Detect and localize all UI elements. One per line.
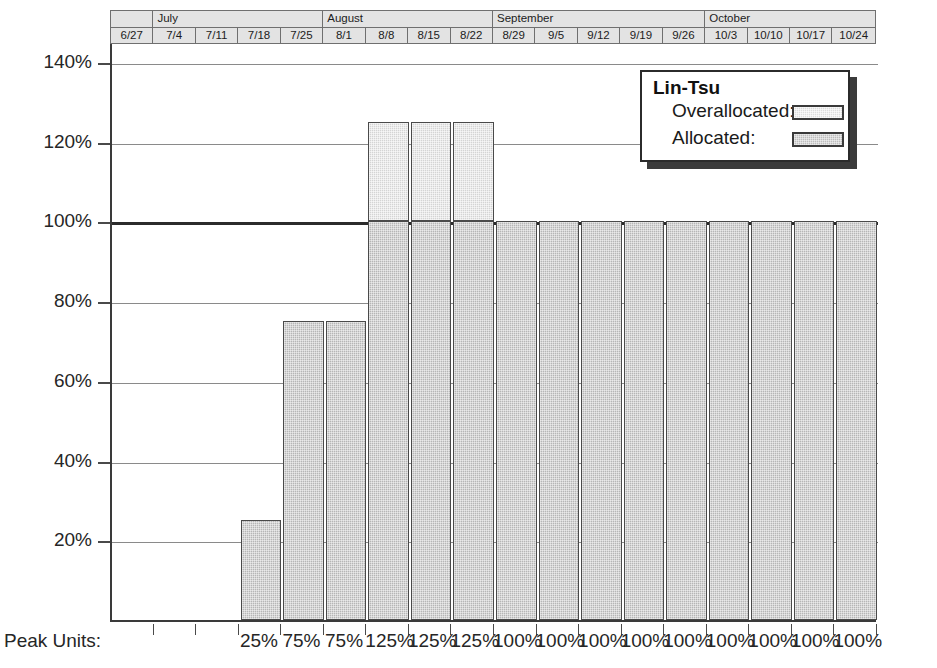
bar-segment-allocated xyxy=(836,221,877,620)
timescale-week-cell: 8/29 xyxy=(493,28,535,43)
bar-segment-allocated xyxy=(283,321,324,620)
timescale-week-cell: 10/24 xyxy=(832,28,874,43)
timescale-week-cell: 8/22 xyxy=(451,28,493,43)
bar-segment-allocated xyxy=(751,221,792,620)
timescale-week-cell: 8/8 xyxy=(366,28,408,43)
peak-units-value: 25% xyxy=(238,630,281,652)
legend-row-overallocated: Overallocated: xyxy=(672,100,844,125)
overallocated-swatch xyxy=(792,105,844,120)
timescale-week-cell: 9/26 xyxy=(663,28,705,43)
peak-units-value: 100% xyxy=(663,630,706,652)
bar-column[interactable] xyxy=(581,221,622,620)
timescale-week-cell: 9/5 xyxy=(535,28,577,43)
bar-column[interactable] xyxy=(666,221,707,620)
bar-segment-allocated xyxy=(581,221,622,620)
bar-segment-overallocated xyxy=(368,122,409,222)
peak-units-value: 75% xyxy=(280,630,323,652)
bar-segment-allocated xyxy=(496,221,537,620)
peak-units-value: 125% xyxy=(365,630,408,652)
bar-column[interactable] xyxy=(624,221,665,620)
timescale-week-cell: 10/10 xyxy=(748,28,790,43)
legend-row-allocated: Allocated: xyxy=(672,127,844,152)
peak-units-value: 100% xyxy=(493,630,536,652)
peak-units-value: 100% xyxy=(791,630,834,652)
bar-segment-allocated xyxy=(709,221,750,620)
bar-column[interactable] xyxy=(836,221,877,620)
y-axis-tick xyxy=(98,222,110,224)
bar-segment-overallocated xyxy=(411,122,452,222)
peak-units-value: 100% xyxy=(536,630,579,652)
timescale-week-cell: 8/15 xyxy=(408,28,450,43)
timescale-month-row: JulyAugustSeptemberOctober xyxy=(110,10,876,27)
bar-column[interactable] xyxy=(751,221,792,620)
timescale-week-cell: 9/12 xyxy=(578,28,620,43)
peak-units-value: 100% xyxy=(706,630,749,652)
bar-segment-allocated xyxy=(411,221,452,620)
legend-box[interactable]: Lin-Tsu Overallocated: Allocated: xyxy=(640,70,850,162)
bar-segment-allocated xyxy=(453,221,494,620)
timescale-week-cell: 6/27 xyxy=(111,28,153,43)
bar-column[interactable] xyxy=(794,221,835,620)
y-axis-label: 60% xyxy=(54,370,92,392)
legend-label-overallocated: Overallocated: xyxy=(672,100,795,122)
legend-title: Lin-Tsu xyxy=(653,77,720,99)
y-axis-label: 120% xyxy=(43,131,92,153)
peak-units-value: 75% xyxy=(323,630,366,652)
bar-segment-allocated xyxy=(539,221,580,620)
timescale-month-september: September xyxy=(493,11,705,27)
x-axis-tick xyxy=(153,624,154,635)
bar-column[interactable] xyxy=(453,122,494,620)
timescale-month-blank xyxy=(111,11,153,27)
timescale-header: JulyAugustSeptemberOctober 6/277/47/117/… xyxy=(110,10,876,44)
y-axis-tick xyxy=(98,63,110,65)
y-axis-label: 20% xyxy=(54,529,92,551)
y-axis-label: 80% xyxy=(54,290,92,312)
bar-column[interactable] xyxy=(241,520,282,620)
bar-segment-overallocated xyxy=(453,122,494,222)
peak-units-label: Peak Units: xyxy=(4,630,101,652)
gridline-140 xyxy=(112,64,878,65)
bar-segment-allocated xyxy=(368,221,409,620)
x-axis-tick xyxy=(195,624,196,635)
timescale-week-cell: 7/25 xyxy=(281,28,323,43)
bar-segment-allocated xyxy=(666,221,707,620)
y-axis-tick xyxy=(98,382,110,384)
bar-column[interactable] xyxy=(496,221,537,620)
bar-column[interactable] xyxy=(411,122,452,620)
y-axis-tick xyxy=(98,462,110,464)
timescale-month-august: August xyxy=(323,11,493,27)
peak-units-value: 100% xyxy=(621,630,664,652)
legend-label-allocated: Allocated: xyxy=(672,127,755,149)
bar-column[interactable] xyxy=(368,122,409,620)
timescale-week-row: 6/277/47/117/187/258/18/88/158/228/299/5… xyxy=(110,27,876,44)
timescale-week-cell: 9/19 xyxy=(620,28,662,43)
y-axis-label: 140% xyxy=(43,51,92,73)
resource-graph-view: JulyAugustSeptemberOctober 6/277/47/117/… xyxy=(0,0,937,668)
allocated-swatch xyxy=(792,132,844,147)
y-axis-tick xyxy=(98,541,110,543)
bar-segment-allocated xyxy=(624,221,665,620)
bar-column[interactable] xyxy=(709,221,750,620)
timescale-week-cell: 7/4 xyxy=(153,28,195,43)
bar-column[interactable] xyxy=(283,321,324,620)
bar-segment-allocated xyxy=(241,520,282,620)
bar-segment-allocated xyxy=(794,221,835,620)
timescale-week-cell: 7/18 xyxy=(238,28,280,43)
timescale-month-july: July xyxy=(153,11,323,27)
timescale-week-cell: 7/11 xyxy=(196,28,238,43)
timescale-week-cell: 8/1 xyxy=(323,28,365,43)
peak-units-value: 100% xyxy=(748,630,791,652)
y-axis-tick xyxy=(98,143,110,145)
bar-column[interactable] xyxy=(326,321,367,620)
y-axis-label: 100% xyxy=(43,210,92,232)
peak-units-value: 100% xyxy=(578,630,621,652)
bar-segment-allocated xyxy=(326,321,367,620)
peak-units-value: 125% xyxy=(408,630,451,652)
peak-units-value: 100% xyxy=(833,630,876,652)
peak-units-value: 125% xyxy=(450,630,493,652)
timescale-week-cell: 10/17 xyxy=(790,28,832,43)
y-axis-label: 40% xyxy=(54,450,92,472)
timescale-week-cell: 10/3 xyxy=(705,28,747,43)
bar-column[interactable] xyxy=(539,221,580,620)
y-axis-tick xyxy=(98,302,110,304)
